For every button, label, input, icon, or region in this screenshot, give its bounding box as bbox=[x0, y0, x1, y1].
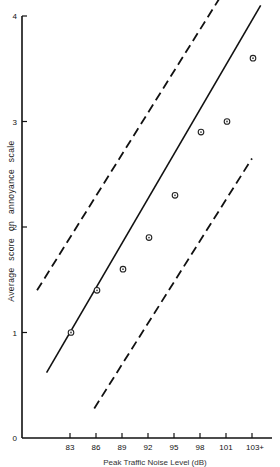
data-point-center bbox=[148, 237, 150, 239]
y-tick-label: 1 bbox=[13, 329, 18, 338]
x-tick-label: 83 bbox=[66, 443, 75, 452]
x-tick-label: 95 bbox=[170, 443, 179, 452]
x-tick-label: 89 bbox=[118, 443, 127, 452]
y-tick-label: 0 bbox=[13, 434, 18, 443]
data-point-center bbox=[174, 194, 176, 196]
x-tick-label: 103+ bbox=[246, 443, 264, 452]
data-point-center bbox=[122, 268, 124, 270]
data-points bbox=[68, 55, 256, 335]
x-tick-label: 92 bbox=[144, 443, 153, 452]
x-axis-label: Peak Traffic Noise Level (dB) bbox=[60, 458, 250, 467]
x-tick-label: 101 bbox=[219, 443, 233, 452]
regression-line bbox=[47, 5, 261, 372]
x-tick-label: 86 bbox=[92, 443, 101, 452]
y-axis-label: Average score on annoyance scale bbox=[6, 126, 16, 316]
data-point-center bbox=[70, 332, 72, 334]
upper-confidence-limit bbox=[37, 0, 222, 290]
data-point-center bbox=[226, 121, 228, 123]
data-point-center bbox=[96, 289, 98, 291]
x-tick-label: 98 bbox=[196, 443, 205, 452]
data-point-center bbox=[200, 131, 202, 133]
axes: 01234838689929598101103+ bbox=[13, 12, 272, 452]
data-point-center bbox=[252, 57, 254, 59]
trend-lines bbox=[37, 0, 261, 408]
y-tick-label: 4 bbox=[13, 12, 18, 21]
